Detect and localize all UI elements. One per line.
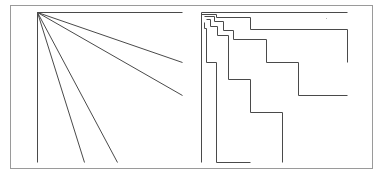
fan-lines-panel: [38, 13, 183, 163]
diagram-canvas: [0, 0, 379, 180]
fan-line-ray-1: [38, 13, 183, 63]
staircase-paths-panel: [202, 13, 348, 163]
staircase-path-step-b: [205, 17, 348, 96]
staircase-path-step-d: [205, 23, 251, 163]
staircase-path-step-c: [207, 20, 283, 163]
marker-dot: [326, 18, 327, 19]
